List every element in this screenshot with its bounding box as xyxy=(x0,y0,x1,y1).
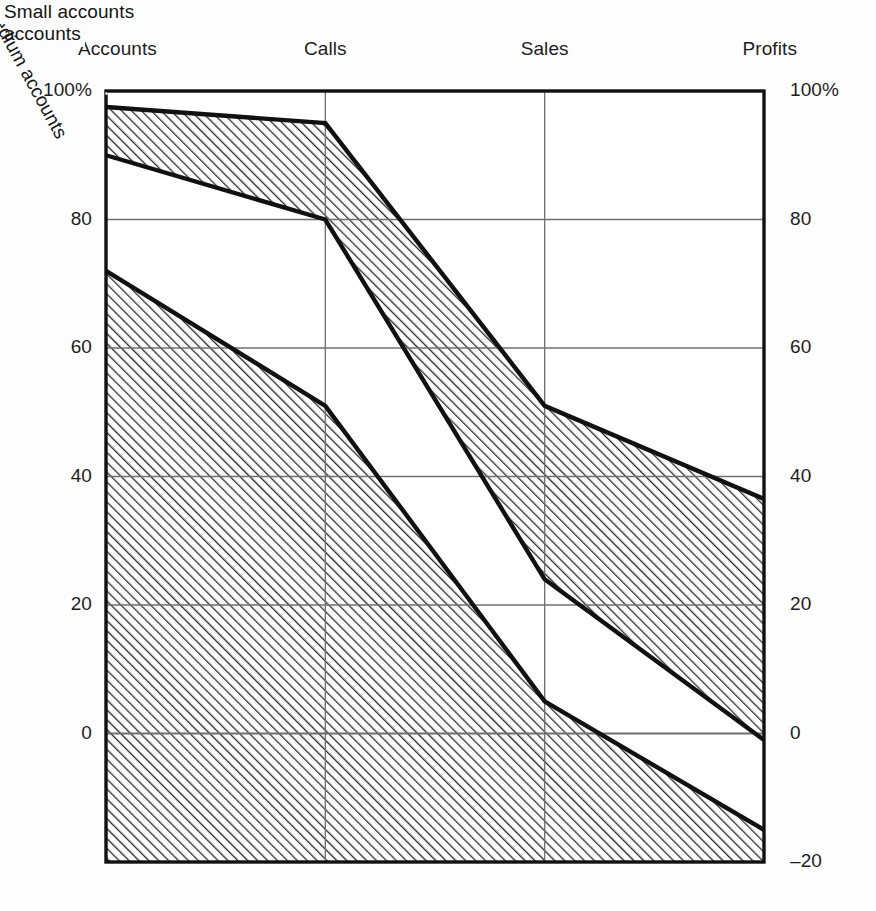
annotation-small-accounts: Small accounts xyxy=(0,0,138,24)
y-axis-right-tick-100: 100% xyxy=(790,79,839,101)
y-axis-left-tick-0: 0 xyxy=(81,722,92,744)
category-label-accounts: Accounts xyxy=(78,38,157,60)
y-axis-right-tick-80: 80 xyxy=(790,208,811,230)
y-axis-left-tick-20: 20 xyxy=(71,593,92,615)
category-label-sales: Sales xyxy=(521,38,569,60)
scan-speck xyxy=(105,92,108,95)
stacked-area-chart: Accounts Calls Sales Profits 100% 80 60 … xyxy=(0,0,876,911)
y-axis-right-tick-20: 20 xyxy=(790,593,811,615)
category-label-calls: Calls xyxy=(304,38,347,60)
category-label-profits: Profits xyxy=(742,38,797,60)
y-axis-right-tick-0: 0 xyxy=(790,722,801,744)
y-axis-left-tick-80: 80 xyxy=(71,208,92,230)
y-axis-left-tick-60: 60 xyxy=(71,336,92,358)
y-axis-left-tick-40: 40 xyxy=(71,465,92,487)
y-axis-right-tick-40: 40 xyxy=(790,465,811,487)
chart-canvas xyxy=(0,0,876,911)
y-axis-right-tick-minus20: –20 xyxy=(790,850,822,872)
y-axis-right-tick-60: 60 xyxy=(790,336,811,358)
